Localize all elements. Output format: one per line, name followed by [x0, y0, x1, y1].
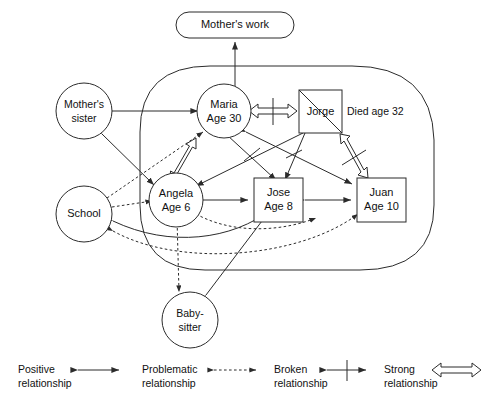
node-mothers-sister-line2: sister: [71, 112, 97, 124]
node-maria-line1: Maria: [210, 98, 238, 110]
node-babysitter-line1: Baby-: [176, 307, 204, 319]
legend-strong-line1: Strong: [384, 363, 415, 375]
node-jose-line1: Jose: [267, 186, 290, 198]
link-school-angela: [112, 201, 152, 207]
node-school[interactable]: School: [56, 186, 112, 242]
legend-item-broken: Broken relationship: [274, 360, 366, 389]
node-angela[interactable]: Angela Age 6: [149, 173, 203, 227]
node-jose[interactable]: Jose Age 8: [254, 178, 303, 222]
legend-item-strong: Strong relationship: [384, 363, 481, 389]
node-school-label: School: [67, 207, 101, 219]
hollow-double-arrow-icon: [432, 363, 481, 377]
legend-strong-line2: relationship: [384, 377, 438, 389]
legend-item-problematic: Problematic relationship: [142, 363, 256, 389]
node-jorge-label: Jorge: [307, 105, 335, 117]
legend-broken-line1: Broken: [274, 363, 307, 375]
link-maria-juan: [246, 132, 352, 184]
legend-problematic-line2: relationship: [142, 377, 196, 389]
link-maria-jose: [227, 135, 276, 180]
ecomap-canvas: Mother's work Mother's sister School Bab…: [0, 0, 494, 408]
link-angela-babysitter: [177, 218, 179, 292]
ecomap-diagram: Mother's work Mother's sister School Bab…: [0, 0, 494, 408]
link-maria-jorge-strong: [249, 98, 297, 125]
legend-problematic-line1: Problematic: [142, 363, 197, 375]
node-jorge[interactable]: Jorge Died age 32: [299, 90, 404, 133]
node-angela-line2: Age 6: [162, 201, 191, 213]
node-jorge-death-note: Died age 32: [347, 105, 404, 117]
node-juan-line1: Juan: [370, 186, 394, 198]
node-mothers-work[interactable]: Mother's work: [176, 12, 294, 38]
link-jorge-juan-strong: [340, 134, 368, 178]
node-mothers-sister[interactable]: Mother's sister: [56, 83, 112, 139]
node-mothers-sister-line1: Mother's: [64, 98, 104, 110]
node-jose-line2: Age 8: [264, 200, 293, 212]
node-angela-line1: Angela: [159, 187, 194, 199]
legend-positive-line2: relationship: [18, 377, 72, 389]
double-arrow-with-bar-icon: [327, 360, 366, 381]
household-boundary: [140, 66, 434, 270]
legend-positive-line1: Positive: [18, 363, 55, 375]
legend-broken-line2: relationship: [274, 377, 328, 389]
node-babysitter[interactable]: Baby- sitter: [162, 292, 218, 348]
node-mothers-work-label: Mother's work: [201, 18, 270, 30]
legend-item-positive: Positive relationship: [18, 363, 119, 389]
link-mothers-sister-angela: [102, 134, 154, 185]
node-juan[interactable]: Juan Age 10: [357, 178, 406, 222]
node-maria-line2: Age 30: [207, 112, 242, 124]
node-babysitter-line2: sitter: [179, 321, 202, 333]
node-juan-line2: Age 10: [364, 200, 399, 212]
node-maria[interactable]: Maria Age 30: [197, 84, 251, 138]
